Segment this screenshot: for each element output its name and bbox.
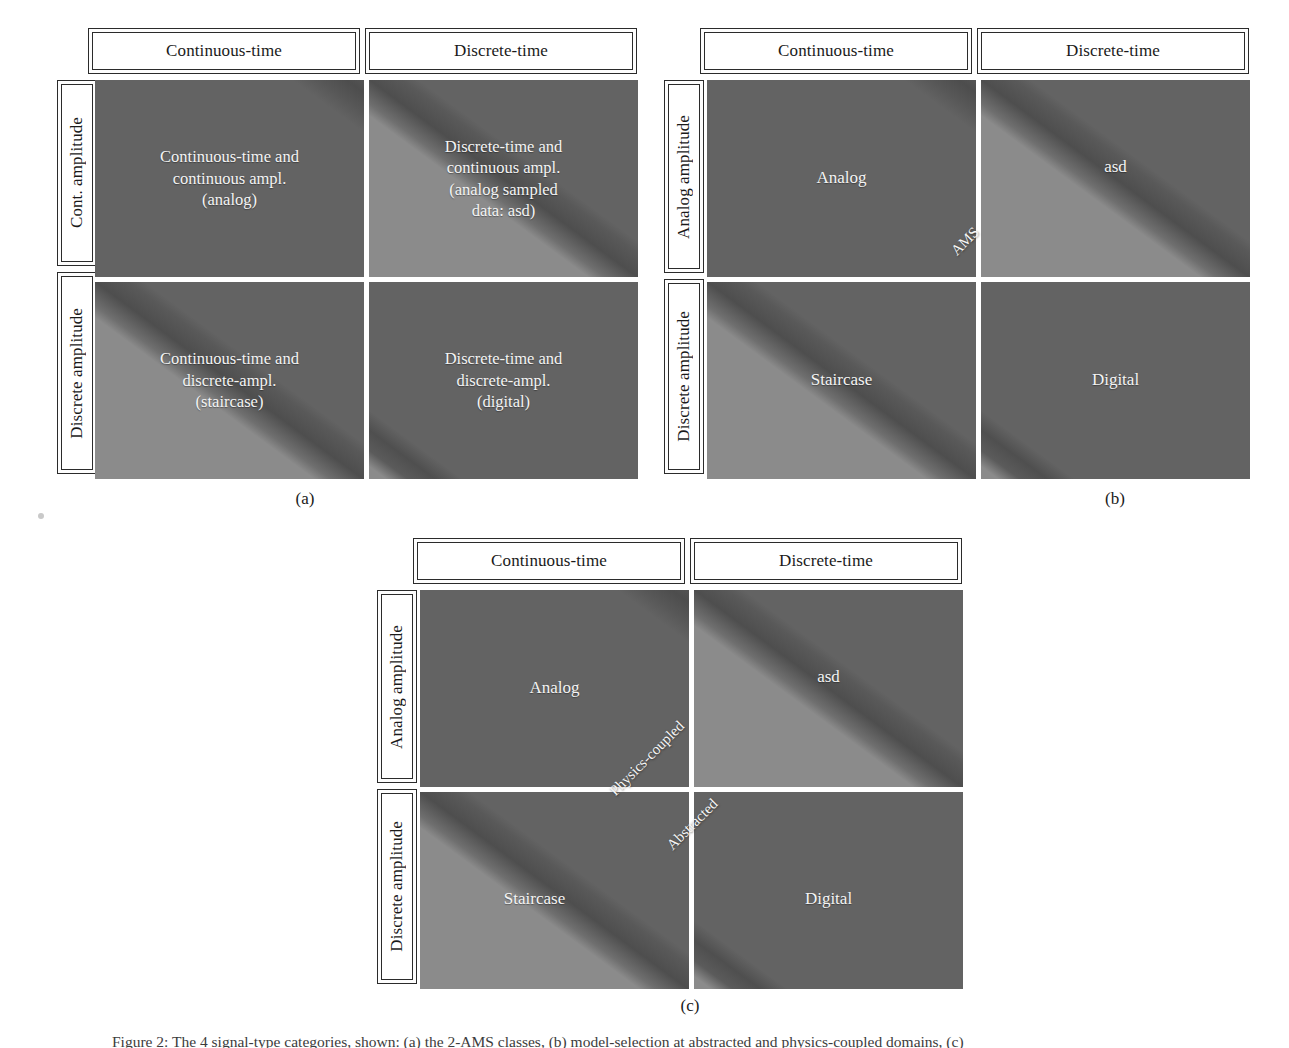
panel-a-cell-digital: Discrete-time and discrete-ampl. (digita…: [369, 282, 638, 479]
cell-shading: [369, 282, 638, 479]
panel-b-column-header-discrete-time: Discrete-time: [977, 28, 1249, 74]
cell-shading: [707, 282, 976, 479]
cell-shading: [420, 792, 689, 989]
panel-a-column-header-discrete-time: Discrete-time: [365, 28, 637, 74]
panel-a-row-header-discrete-amplitude: Discrete amplitude: [57, 272, 97, 474]
cell-shading: [95, 282, 364, 479]
panel-c-column-header-discrete-time: Discrete-time: [690, 538, 962, 584]
row-header-label: Discrete amplitude: [674, 311, 694, 442]
row-header-label: Analog amplitude: [674, 115, 694, 239]
panel-b-cell-staircase: Staircase: [707, 282, 976, 479]
panel-c-row-header-discrete-amplitude: Discrete amplitude: [377, 789, 417, 984]
column-header-label: Continuous-time: [166, 41, 282, 61]
column-header-label: Discrete-time: [1066, 41, 1160, 61]
panel-b-cell-asd: asd: [981, 80, 1250, 277]
column-header-label: Continuous-time: [778, 41, 894, 61]
column-header-label: Discrete-time: [779, 551, 873, 571]
panel-c-row-header-analog-amplitude: Analog amplitude: [377, 590, 417, 783]
row-header-label: Discrete amplitude: [387, 821, 407, 952]
scan-speck: [38, 513, 44, 519]
panel-a-matrix: Continuous-time and continuous ampl. (an…: [95, 80, 638, 479]
row-header-label: Analog amplitude: [387, 625, 407, 749]
panel-c-column-header-continuous-time: Continuous-time: [413, 538, 685, 584]
column-header-label: Continuous-time: [491, 551, 607, 571]
panel-b-cell-analog: Analog: [707, 80, 976, 277]
cell-shading: [981, 80, 1250, 277]
panel-a-cell-analog: Continuous-time and continuous ampl. (an…: [95, 80, 364, 277]
panel-b-row-header-analog-amplitude: Analog amplitude: [664, 80, 704, 273]
panel-a-column-header-row: Continuous-time Discrete-time: [88, 28, 637, 74]
figure-caption: Figure 2: The 4 signal-type categories, …: [112, 1031, 1182, 1048]
panel-c-cell-staircase: Staircase: [420, 792, 689, 989]
panel-c-cell-asd: asd: [694, 590, 963, 787]
panel-c-matrix: Analog asd Staircase Digital: [420, 590, 963, 989]
panel-b-column-header-row: Continuous-time Discrete-time: [700, 28, 1249, 74]
cell-shading: [981, 282, 1250, 479]
cell-shading: [420, 590, 689, 787]
cell-shading: [707, 80, 976, 277]
panel-c-cell-analog: Analog: [420, 590, 689, 787]
panel-a-row-header-cont-amplitude: Cont. amplitude: [57, 80, 97, 266]
cell-shading: [95, 80, 364, 277]
panel-b-row-header-discrete-amplitude: Discrete amplitude: [664, 279, 704, 474]
row-header-label: Cont. amplitude: [67, 117, 87, 228]
panel-c-letter: (c): [660, 996, 720, 1016]
panel-c-column-header-row: Continuous-time Discrete-time: [413, 538, 962, 584]
panel-b-letter: (b): [1085, 489, 1145, 509]
cell-shading: [694, 590, 963, 787]
column-header-label: Discrete-time: [454, 41, 548, 61]
panel-a-column-header-continuous-time: Continuous-time: [88, 28, 360, 74]
row-header-label: Discrete amplitude: [67, 308, 87, 439]
panel-a-letter: (a): [275, 489, 335, 509]
panel-a-cell-asd: Discrete-time and continuous ampl. (anal…: [369, 80, 638, 277]
cell-shading: [694, 792, 963, 989]
cell-shading: [369, 80, 638, 277]
panel-a-cell-staircase: Continuous-time and discrete-ampl. (stai…: [95, 282, 364, 479]
panel-b-matrix: Analog asd Staircase Digital: [707, 80, 1250, 479]
panel-b-cell-digital: Digital: [981, 282, 1250, 479]
panel-c-cell-digital: Digital: [694, 792, 963, 989]
panel-b-column-header-continuous-time: Continuous-time: [700, 28, 972, 74]
